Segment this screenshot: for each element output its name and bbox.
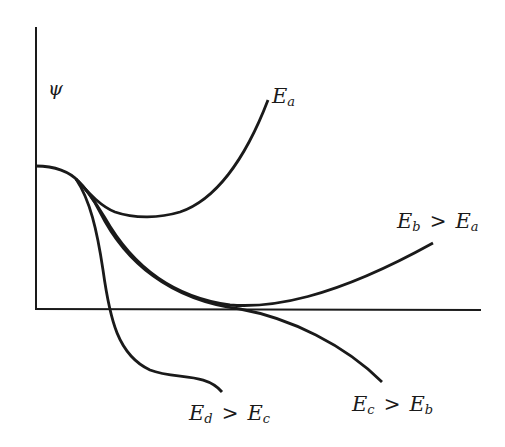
label-ea: Ea: [272, 86, 295, 108]
label-ea-sub: a: [287, 94, 295, 109]
curve-eb: [78, 181, 433, 306]
greater-than-sign: >: [222, 401, 239, 425]
label-eb-rhs-main: E: [455, 209, 470, 233]
label-eb-main: E: [397, 209, 412, 233]
label-ec-gt-eb: Ec>Eb: [352, 394, 433, 416]
label-ed-rhs-main: E: [247, 401, 262, 425]
label-ed-sub: d: [204, 411, 212, 426]
psi-symbol: ψ: [48, 77, 63, 99]
label-ec-rhs-sub: b: [425, 402, 433, 417]
curve-ea: [78, 100, 268, 217]
y-axis-label: ψ: [48, 79, 63, 98]
label-eb-gt-ea: Eb>Ea: [397, 211, 479, 233]
label-ec-main: E: [352, 392, 367, 416]
label-ec-rhs-main: E: [409, 392, 424, 416]
label-eb-rhs-sub: a: [471, 219, 479, 234]
curve-ec: [76, 179, 382, 382]
curve-common-start: [36, 166, 78, 181]
x-axis: [35, 309, 481, 310]
greater-than-sign: >: [430, 209, 447, 233]
greater-than-sign: >: [384, 392, 401, 416]
label-ea-main: E: [272, 84, 287, 108]
label-eb-sub: b: [412, 219, 420, 234]
label-ed-main: E: [189, 401, 204, 425]
wavefunction-diagram: ψ Ea Eb>Ea Ec>Eb Ed>Ec: [0, 0, 505, 447]
label-ec-sub: c: [367, 402, 374, 417]
label-ed-gt-ec: Ed>Ec: [189, 403, 270, 425]
label-ed-rhs-sub: c: [263, 411, 270, 426]
